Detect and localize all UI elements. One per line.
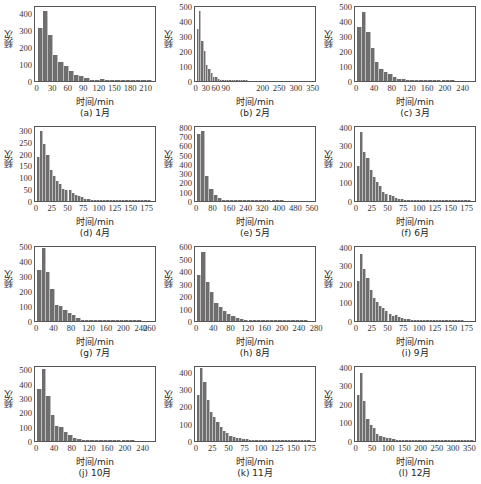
plot-area — [34, 126, 156, 202]
x-tick-label: 125 — [429, 324, 442, 333]
panel-caption: (g) 7月 — [34, 348, 156, 358]
x-axis-label: 时间/min — [34, 217, 156, 227]
plot-area — [34, 6, 156, 82]
x-tick-label: 100 — [413, 204, 426, 213]
x-tick-label: 80 — [67, 444, 76, 453]
x-tick-label: 200 — [414, 444, 427, 453]
histogram-bar — [147, 80, 152, 81]
x-tick-label: 40 — [370, 84, 379, 93]
x-tick-label: 120 — [241, 324, 254, 333]
x-tick-label: 25 — [367, 204, 376, 213]
y-tick-label: 400 — [19, 10, 32, 19]
x-axis-label: 时间/min — [194, 457, 316, 467]
x-tick-label: 250 — [431, 444, 444, 453]
histogram-panel: 010020030040050004080120160200240260频次时间… — [0, 240, 160, 361]
x-tick-label: 120 — [82, 324, 95, 333]
x-tick-label: 30 — [48, 84, 57, 93]
x-tick-label: 150 — [444, 324, 457, 333]
x-tick-label: 175 — [303, 444, 316, 453]
y-tick-label: 400 — [339, 123, 352, 132]
x-tick-label: 90 — [79, 84, 88, 93]
y-tick-label: 0 — [348, 318, 352, 327]
y-axis-label: 频次 — [3, 30, 13, 48]
plot-area — [354, 126, 476, 202]
plot-area — [194, 246, 316, 322]
y-tick-label: 300 — [19, 273, 32, 282]
x-tick-label: 30 — [201, 84, 210, 93]
x-tick-label: 240 — [136, 444, 149, 453]
panel-caption: (c) 3月 — [354, 108, 476, 118]
y-tick-label: 200 — [339, 280, 352, 289]
y-tick-label: 100 — [339, 63, 352, 72]
x-tick-label: 150 — [108, 84, 121, 93]
x-axis-label: 时间/min — [354, 97, 476, 107]
y-tick-label: 200 — [19, 288, 32, 297]
x-tick-label: 60 — [63, 84, 72, 93]
x-tick-label: 75 — [399, 324, 408, 333]
x-tick-label: 0 — [354, 204, 358, 213]
y-tick-label: 0 — [188, 438, 192, 447]
x-tick-label: 150 — [444, 204, 457, 213]
y-tick-label: 600 — [179, 142, 192, 151]
x-tick-label: 200 — [117, 324, 130, 333]
x-axis-label: 时间/min — [34, 337, 156, 347]
x-tick-label: 125 — [429, 204, 442, 213]
y-tick-label: 400 — [179, 368, 192, 377]
y-tick-label: 600 — [179, 243, 192, 252]
y-tick-label: 100 — [179, 305, 192, 314]
y-tick-label: 0 — [28, 198, 32, 207]
y-tick-label: 500 — [19, 243, 32, 252]
y-tick-label: 50 — [24, 186, 33, 195]
x-tick-label: 25 — [367, 324, 376, 333]
y-tick-label: 300 — [179, 386, 192, 395]
x-tick-label: 120 — [83, 444, 96, 453]
x-tick-label: 0 — [354, 84, 358, 93]
x-axis-label: 时间/min — [354, 337, 476, 347]
x-tick-label: 200 — [439, 84, 452, 93]
y-tick-label: 500 — [339, 3, 352, 12]
y-tick-label: 400 — [339, 363, 352, 372]
x-tick-label: 300 — [290, 84, 303, 93]
plot-area — [354, 366, 476, 442]
x-tick-label: 50 — [63, 204, 72, 213]
x-axis-label: 时间/min — [354, 217, 476, 227]
y-tick-label: 100 — [19, 61, 32, 70]
x-tick-label: 160 — [101, 444, 114, 453]
y-tick-label: 300 — [339, 382, 352, 391]
histogram-bar — [130, 440, 134, 441]
x-tick-label: 100 — [254, 444, 267, 453]
x-tick-label: 240 — [456, 84, 469, 93]
x-tick-label: 50 — [383, 324, 392, 333]
panel-caption: (e) 5月 — [194, 228, 316, 238]
x-tick-label: 125 — [271, 444, 284, 453]
y-tick-label: 400 — [179, 160, 192, 169]
plot-area — [34, 246, 156, 322]
histogram-panel: 01002003004000255075100125150175频次时间/min… — [160, 360, 320, 481]
x-tick-label: 25 — [47, 204, 56, 213]
y-tick-label: 400 — [339, 18, 352, 27]
x-axis-label: 时间/min — [354, 457, 476, 467]
y-tick-label: 400 — [339, 243, 352, 252]
x-tick-label: 350 — [463, 444, 476, 453]
x-tick-label: 0 — [194, 84, 198, 93]
y-tick-label: 700 — [179, 133, 192, 142]
y-tick-label: 300 — [19, 126, 32, 135]
histogram-panel: 01002003004000255075100125150175频次时间/min… — [320, 240, 480, 361]
panel-caption: (a) 1月 — [34, 108, 156, 118]
y-tick-label: 200 — [179, 293, 192, 302]
histogram-panel: 0100200300400050100150200250300350频次时间/m… — [320, 360, 480, 481]
panel-caption: (i) 9月 — [354, 348, 476, 358]
x-tick-label: 75 — [399, 204, 408, 213]
x-tick-label: 50 — [224, 444, 233, 453]
x-tick-label: 50 — [383, 204, 392, 213]
x-tick-label: 160 — [100, 324, 113, 333]
x-axis-label: 时间/min — [194, 337, 316, 347]
y-tick-label: 300 — [19, 394, 32, 403]
histogram-panel: 0501001502002503000255075100125150175频次时… — [0, 120, 160, 241]
y-tick-label: 100 — [339, 179, 352, 188]
histogram-bar — [137, 320, 141, 321]
x-tick-label: 150 — [398, 444, 411, 453]
x-tick-label: 0 — [34, 204, 38, 213]
x-tick-label: 0 — [34, 444, 38, 453]
y-axis-label: 频次 — [323, 30, 333, 48]
